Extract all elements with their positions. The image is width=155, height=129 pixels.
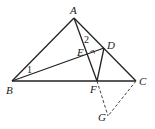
- label-B: B: [6, 84, 13, 96]
- label-G: G: [98, 111, 106, 123]
- label-D: D: [106, 39, 115, 51]
- label-E: E: [76, 46, 84, 58]
- angle-label-2: 2: [84, 34, 89, 45]
- label-C: C: [139, 75, 147, 87]
- geometry-figure: A B C D E F G 1 2: [0, 0, 155, 129]
- angle-label-1: 1: [27, 64, 32, 75]
- label-A: A: [69, 4, 77, 16]
- label-F: F: [89, 83, 97, 95]
- segment-AB: [12, 18, 74, 81]
- segment-CG-dashed: [108, 81, 136, 116]
- segment-DF: [97, 48, 104, 81]
- segment-BD: [12, 48, 104, 81]
